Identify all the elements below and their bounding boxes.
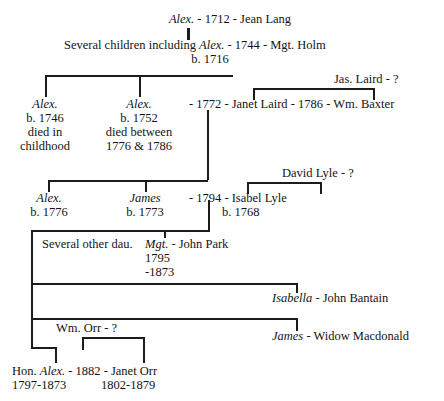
children-trunk [31, 230, 33, 348]
person-name-mgt: Mgt. [145, 237, 168, 251]
marriage-separator-1744: - 1744 - [224, 38, 270, 52]
person-name-james-1773: James [129, 191, 160, 205]
marriage-separator-isabella: - [312, 291, 322, 305]
birth-alex-1752: b. 1752 [93, 111, 185, 125]
spouse-janet-orr: Janet Orr [111, 364, 157, 378]
connector-gen3-alex-1746 [45, 75, 47, 97]
person-name-alex-1744: Alex. [199, 38, 224, 52]
death-note-alex-1752-line2: 1776 & 1786 [93, 139, 185, 153]
marriage-separator-james-macdonald: - [303, 329, 313, 343]
label-several-children: Several children including [64, 38, 199, 52]
dates-janet-orr: 1802-1879 [101, 378, 155, 392]
birth-james-1773: b. 1773 [108, 205, 182, 219]
node-alex-1752: Alex. b. 1752 died between 1776 & 1786 [93, 97, 185, 153]
node-isabel-lyle-marriage: - 1794 - Isabel Lyle [189, 191, 287, 205]
spouse-isabel-lyle: Isabel Lyle [232, 191, 287, 205]
spouse-mgt-holm: Mgt. Holm [270, 38, 326, 52]
birth-alex-1776: b. 1776 [12, 205, 86, 219]
connector-david-lyle-drop [320, 182, 322, 194]
node-wm-orr: Wm. Orr - ? [56, 321, 117, 335]
connector-trunk-to-hon-alex [31, 347, 56, 349]
death-note-alex-1746-line1: died in [5, 125, 85, 139]
marriage-separator-1712: - 1712 - [194, 12, 240, 26]
connector-hon-alex-riser [55, 347, 57, 363]
connector-1794-drop [208, 200, 210, 231]
person-name-alex-1746: Alex. [32, 97, 57, 111]
node-isabella-bantain: Isabella - John Bantain [272, 291, 388, 305]
marriage-separator-1794: - 1794 - [189, 191, 232, 205]
person-name-alex-1776: Alex. [36, 191, 61, 205]
spouse-wm-baxter: Wm. Baxter [333, 97, 394, 111]
node-hon-alex-janet-orr: Hon. Alex. - 1882 - Janet Orr [12, 364, 157, 378]
honorific-hon: Hon. [12, 364, 40, 378]
person-name-alex-1712: Alex. [169, 12, 194, 26]
spouse-widow-macdonald: Widow Macdonald [313, 329, 409, 343]
node-mgt-john-park: Mgt. - John Park 1795 -1873 [145, 237, 228, 279]
death-note-alex-1746-line2: childhood [5, 139, 85, 153]
birth-alex-1744: b. 1716 [150, 52, 270, 66]
connector-1772-to-gen4 [207, 110, 209, 180]
spouse-john-bantain: John Bantain [323, 291, 389, 305]
connector-janet-orr-riser [143, 337, 145, 363]
node-janet-laird-marriages: - 1772 - Janet Laird - 1786 - Wm. Baxter [189, 97, 394, 111]
connector-jas-laird-to-janet [253, 88, 375, 90]
node-jas-laird: Jas. Laird - ? [334, 72, 399, 86]
marriage-separator-mgt: - [168, 237, 178, 251]
dates-hon-alex: 1797-1873 [12, 378, 66, 392]
marriage-separator-1772: - 1772 - [189, 97, 232, 111]
node-david-lyle: David Lyle - ? [282, 166, 354, 180]
person-name-hon-alex: Alex. [40, 364, 65, 378]
family-tree-diagram: Alex. - 1712 - Jean Lang Several childre… [0, 0, 444, 401]
person-name-alex-1752: Alex. [126, 97, 151, 111]
marriage-separator-1786: - 1786 - [288, 97, 334, 111]
death-year-mgt: -1873 [145, 265, 228, 279]
birth-year-mgt: 1795 [145, 251, 228, 265]
birth-isabel-lyle: b. 1768 [222, 205, 260, 219]
spouse-john-park: John Park [179, 237, 229, 251]
person-name-james-macdonald: James [272, 329, 303, 343]
node-alex-1744-mgt-holm: Several children including Alex. - 1744 … [64, 38, 326, 52]
connector-1794-to-trunk [31, 230, 210, 232]
birth-alex-1746: b. 1746 [5, 111, 85, 125]
connector-wm-orr-drop [82, 337, 84, 350]
spouse-jean-lang: Jean Lang [240, 12, 291, 26]
marriage-separator-1882: - 1882 - [65, 364, 111, 378]
connector-gen3-alex-1752 [139, 75, 141, 97]
connector-trunk-to-james-macdonald [31, 318, 297, 320]
node-james-macdonald: James - Widow Macdonald [272, 329, 409, 343]
node-james-1773: James b. 1773 [108, 191, 182, 219]
node-alex-1712-jean-lang: Alex. - 1712 - Jean Lang [150, 12, 310, 26]
connector-trunk-to-isabella [31, 283, 297, 285]
connector-wm-orr-to-janet-orr [82, 337, 144, 339]
sibling-bar-gen4 [48, 180, 208, 182]
node-several-other-dau: Several other dau. [42, 237, 133, 251]
node-alex-1746: Alex. b. 1746 died in childhood [5, 97, 85, 153]
person-name-isabella: Isabella [272, 291, 312, 305]
connector-david-lyle-to-isabel [247, 182, 322, 184]
node-alex-1776: Alex. b. 1776 [12, 191, 86, 219]
death-note-alex-1752-line1: died between [93, 125, 185, 139]
spouse-janet-laird: Janet Laird [232, 97, 288, 111]
